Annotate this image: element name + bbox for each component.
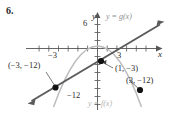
x-tick-label-neg3: −3 <box>48 51 57 60</box>
curve-g-arrow-right-icon <box>157 20 165 26</box>
data-point-1-neg3 <box>98 58 104 64</box>
point-label-1-neg3: (1, −3) <box>115 64 138 73</box>
figure-graph-problem-6: 6. y x 6 −12 −3 3 y = g(x) y = f(x) (−3,… <box>0 0 171 134</box>
x-axis-label: x <box>158 50 162 59</box>
curve-label-g: y = g(x) <box>106 13 132 21</box>
y-axis-label: y <box>92 12 96 21</box>
point-label-neg3-neg12: (−3, −12) <box>8 61 40 70</box>
x-tick-label-3: 3 <box>117 51 121 60</box>
y-tick-label-6: 6 <box>83 19 87 28</box>
leader-line-point-neg3 <box>46 72 55 86</box>
data-point-3-neg12 <box>137 87 143 93</box>
y-tick-label-neg12: −12 <box>67 91 80 100</box>
problem-number: 6. <box>6 6 14 16</box>
point-label-3-neg12: (3, −12) <box>126 76 153 85</box>
data-point-neg3-neg12 <box>52 84 58 90</box>
curve-label-f: y = f(x) <box>88 100 112 108</box>
